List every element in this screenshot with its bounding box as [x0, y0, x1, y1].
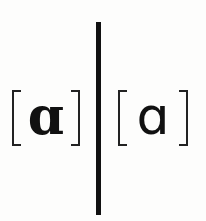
right-symbol-group: ɑ: [118, 88, 188, 150]
left-symbol-group: ɑ: [12, 88, 80, 150]
left-close-bracket: [71, 90, 80, 146]
vertical-divider: [96, 22, 101, 215]
right-phonetic-symbol: ɑ: [118, 88, 188, 144]
right-close-bracket: [179, 90, 188, 146]
phonetic-comparison-diagram: ɑ ɑ: [0, 0, 206, 221]
left-phonetic-symbol: ɑ: [12, 88, 80, 144]
